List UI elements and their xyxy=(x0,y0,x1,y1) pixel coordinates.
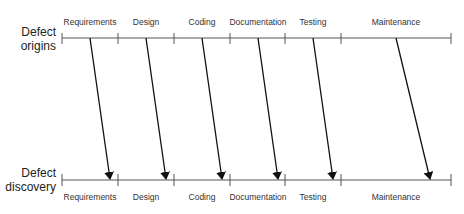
origin-phase-design: Design xyxy=(133,17,160,27)
bottom-axis-label-line2: discovery xyxy=(5,180,56,194)
discovery-timeline xyxy=(62,174,451,186)
arrow-maintenance xyxy=(396,38,430,179)
discovery-phase-requirements: Requirements xyxy=(64,192,117,202)
top-axis-label-line2: origins xyxy=(21,39,56,53)
arrow-coding xyxy=(202,38,222,179)
top-axis-label-line1: Defect xyxy=(21,25,56,39)
origin-phase-coding: Coding xyxy=(189,17,216,27)
origin-phase-maintenance: Maintenance xyxy=(372,17,421,27)
arrow-requirements xyxy=(90,38,110,179)
origins-timeline xyxy=(62,33,451,44)
discovery-phase-maintenance: Maintenance xyxy=(372,192,421,202)
origin-phase-requirements: Requirements xyxy=(64,17,117,27)
discovery-phase-documentation: Documentation xyxy=(229,192,286,202)
discovery-phase-coding: Coding xyxy=(189,192,216,202)
arrow-documentation xyxy=(258,38,278,179)
discovery-phase-design: Design xyxy=(133,192,160,202)
arrow-design xyxy=(146,38,166,179)
bottom-axis-label-line1: Defect xyxy=(21,166,56,180)
defect-origin-discovery-diagram: Defect origins Defect discovery Requirem… xyxy=(0,0,464,214)
origin-phase-testing: Testing xyxy=(300,17,327,27)
discovery-phase-testing: Testing xyxy=(300,192,327,202)
origin-phase-documentation: Documentation xyxy=(229,17,286,27)
arrow-testing xyxy=(313,38,333,179)
